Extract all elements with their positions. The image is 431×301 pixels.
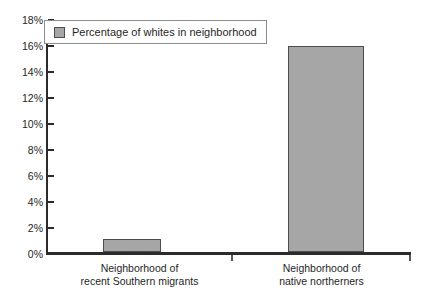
y-axis-tick: 12%	[0, 92, 54, 104]
x-category-label-1: Neighborhood of native northerners	[232, 262, 411, 288]
y-axis-tick: 2%	[0, 222, 54, 234]
x-category-label-0-line-1: Neighborhood of	[48, 262, 231, 275]
y-tick-label: 18%	[22, 14, 43, 26]
y-tick-label: 4%	[28, 196, 43, 208]
y-tick-label: 6%	[28, 170, 43, 182]
y-tick-label: 12%	[22, 92, 43, 104]
legend-swatch-icon	[54, 27, 65, 38]
bar-series-0-category-1	[288, 46, 364, 252]
x-axis-line	[46, 252, 411, 255]
y-tick-label: 16%	[22, 40, 43, 52]
y-axis-tick: 14%	[0, 66, 54, 78]
y-tick-label: 0%	[28, 248, 43, 260]
y-tick-label: 2%	[28, 222, 43, 234]
x-category-label-0-line-2: recent Southern migrants	[48, 275, 231, 288]
x-category-label-1-line-2: native northerners	[232, 275, 411, 288]
chart-legend: Percentage of whites in neighborhood	[44, 20, 267, 44]
x-tick-mark	[231, 255, 233, 261]
y-tick-label: 14%	[22, 66, 43, 78]
y-tick-label: 10%	[22, 118, 43, 130]
y-axis-tick: 6%	[0, 170, 54, 182]
plot-area	[48, 20, 411, 252]
x-tick-mark	[409, 255, 411, 261]
y-axis-tick: 10%	[0, 118, 54, 130]
bar-chart: 18% 16% 14% 12% 10% 8% 6% 4% 2% 0%	[0, 0, 431, 301]
y-axis-tick: 4%	[0, 196, 54, 208]
x-category-label-1-line-1: Neighborhood of	[232, 262, 411, 275]
x-category-label-0: Neighborhood of recent Southern migrants	[48, 262, 231, 288]
y-axis-tick: 8%	[0, 144, 54, 156]
bar-series-0-category-0	[103, 239, 161, 252]
y-tick-label: 8%	[28, 144, 43, 156]
legend-label: Percentage of whites in neighborhood	[72, 26, 257, 39]
